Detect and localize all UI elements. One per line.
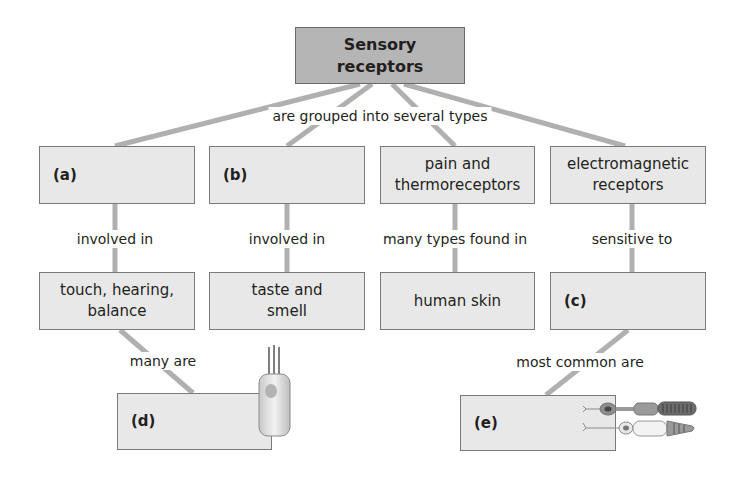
type-label-a: (a) (53, 165, 77, 186)
photoreceptor-rod-cone-icon (580, 400, 702, 446)
root-node-sensory-receptors: Sensory receptors (295, 27, 465, 84)
detail-box-taste-smell: taste and smell (209, 272, 365, 330)
detail-label-c: (c) (564, 291, 587, 312)
link-label-b: involved in (245, 230, 330, 248)
link-label-a: involved in (73, 230, 158, 248)
detail-label-skin: human skin (414, 291, 501, 312)
detail-box-touch-hearing-balance: touch, hearing, balance (39, 272, 195, 330)
sub-label-e: (e) (474, 413, 498, 434)
hair-cell-icon (256, 345, 294, 440)
type-label-b: (b) (223, 165, 247, 186)
type-label-electromagnetic: electromagnetic receptors (556, 154, 701, 196)
detail-label-touch: touch, hearing, balance (50, 280, 185, 322)
link-label-electro: sensitive to (588, 230, 677, 248)
link-label-pain: many types found in (379, 230, 531, 248)
type-label-pain-thermo: pain and thermoreceptors (388, 154, 528, 196)
detail-box-c: (c) (550, 272, 706, 330)
link-label-most-common: most common are (512, 353, 648, 371)
link-label-grouped: are grouped into several types (268, 107, 491, 125)
type-box-pain-thermo: pain and thermoreceptors (380, 146, 535, 204)
link-label-many-are: many are (126, 352, 200, 370)
detail-label-taste: taste and smell (237, 280, 337, 322)
root-label: Sensory receptors (330, 34, 430, 78)
type-box-electromagnetic: electromagnetic receptors (550, 146, 706, 204)
detail-box-human-skin: human skin (380, 272, 535, 330)
sub-label-d: (d) (131, 411, 155, 432)
type-box-b: (b) (209, 146, 365, 204)
sub-box-d: (d) (117, 393, 272, 450)
type-box-a: (a) (39, 146, 195, 204)
